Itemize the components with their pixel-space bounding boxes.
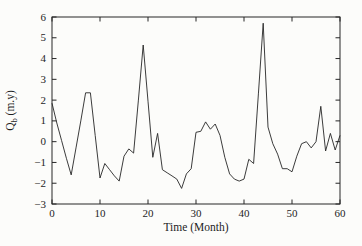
line-chart: −3−2−101234560102030405060Time (Month)Qb… <box>0 0 362 246</box>
y-tick-label: 0 <box>41 135 47 147</box>
x-tick-label: 0 <box>49 207 55 219</box>
y-tick-label: −1 <box>34 156 46 168</box>
x-tick-label: 30 <box>191 207 203 219</box>
x-tick-label: 50 <box>287 207 299 219</box>
y-tick-label: 3 <box>41 73 47 85</box>
y-tick-label: 1 <box>41 114 47 126</box>
x-tick-label: 60 <box>335 207 347 219</box>
x-tick-label: 20 <box>143 207 155 219</box>
y-tick-label: 2 <box>41 94 47 106</box>
y-tick-label: 4 <box>41 52 47 64</box>
figure-page: −3−2−101234560102030405060Time (Month)Qb… <box>0 0 362 246</box>
y-tick-label: 5 <box>41 31 47 43</box>
y-tick-label: −3 <box>34 198 46 210</box>
y-tick-label: 6 <box>41 11 47 23</box>
x-tick-label: 10 <box>95 207 107 219</box>
y-tick-label: −2 <box>34 177 46 189</box>
x-tick-label: 40 <box>239 207 251 219</box>
x-axis-label: Time (Month) <box>163 221 228 234</box>
